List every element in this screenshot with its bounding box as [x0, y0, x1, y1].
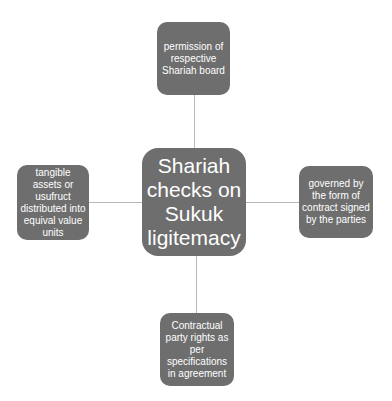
node-bottom: Contractual party rights as per specific… — [160, 313, 234, 386]
node-bottom-label: Contractual party rights as per specific… — [163, 320, 231, 380]
node-left: tangible assets or usufruct distributed … — [17, 165, 89, 240]
node-right: governed by the form of contract signed … — [299, 166, 373, 238]
connector-top — [194, 95, 195, 149]
node-top-label: permission of respective Shariah board — [160, 41, 227, 77]
node-center: Shariah checks on Sukuk ligitemacy — [142, 148, 246, 256]
connector-bottom — [196, 256, 197, 314]
connector-left — [88, 202, 143, 203]
node-top: permission of respective Shariah board — [157, 22, 230, 95]
node-left-label: tangible assets or usufruct distributed … — [20, 167, 86, 239]
node-right-label: governed by the form of contract signed … — [302, 178, 370, 226]
node-center-label: Shariah checks on Sukuk ligitemacy — [146, 154, 242, 250]
connector-right — [246, 202, 300, 203]
